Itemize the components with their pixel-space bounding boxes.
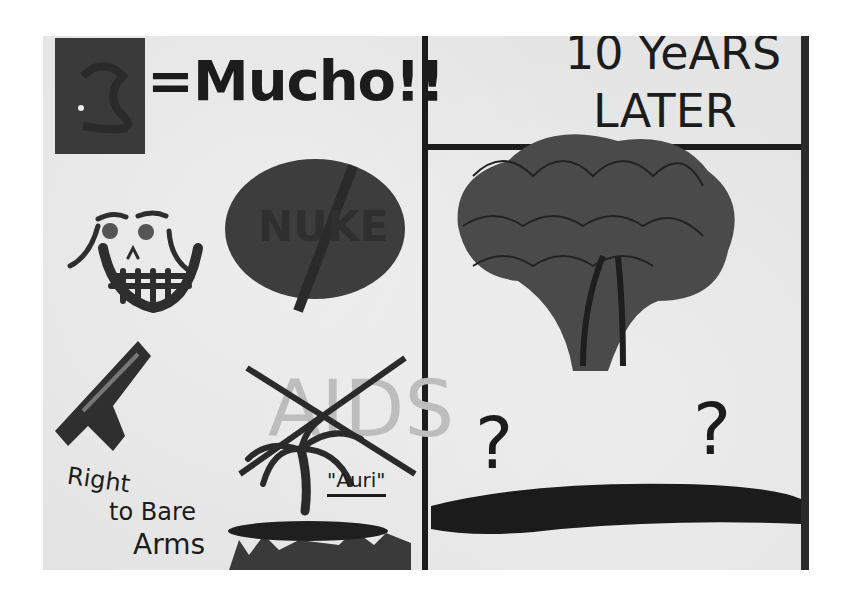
mushroom-cloud-icon: [458, 134, 735, 371]
ground-shape: [431, 484, 801, 534]
gun-caption-line-2: to Bare: [109, 498, 196, 526]
title-line-1: 10 YeARS: [565, 36, 781, 80]
question-marks: ? ?: [475, 387, 731, 485]
gun-caption-line-3: Arms: [133, 528, 205, 561]
nuke-crossed-icon: NUKE: [225, 159, 405, 311]
skull-icon: [70, 213, 198, 308]
question-mark-right: ?: [693, 387, 731, 471]
gun-icon: [55, 341, 151, 451]
money-symbol-icon: [55, 38, 145, 154]
title-line-2: LATER: [593, 84, 737, 138]
vertical-divider: [422, 36, 428, 570]
svg-text:NUKE: NUKE: [258, 202, 389, 251]
aids-crossed-icon: AIDS: [240, 358, 454, 474]
poster-artwork: NUKE AIDS ? ?: [43, 36, 809, 570]
palm-caption: "Auri": [327, 468, 386, 497]
question-mark-left: ?: [475, 401, 513, 485]
mucho-text: =Mucho!!: [147, 48, 444, 113]
right-border: [801, 36, 809, 570]
